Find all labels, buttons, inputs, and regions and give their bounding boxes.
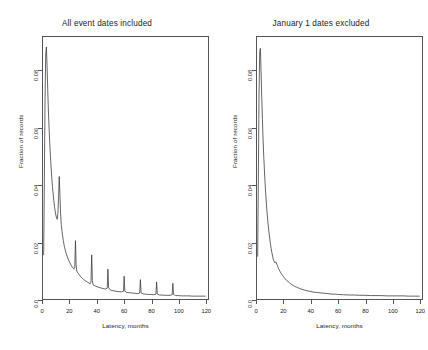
x-tick <box>179 300 180 304</box>
y-axis-left: 0.00.020.040.060.08 <box>0 36 42 300</box>
x-tick-label: 80 <box>148 308 154 314</box>
y-tick-label: 0.06 <box>33 128 39 139</box>
x-axis-title-right: Latency, months <box>256 322 423 329</box>
x-tick-label: 100 <box>388 308 398 314</box>
y-tick-label: 0.02 <box>33 243 39 254</box>
x-tick <box>152 300 153 304</box>
x-tick <box>366 300 367 304</box>
y-tick-label: 0.04 <box>33 185 39 196</box>
x-tick <box>283 300 284 304</box>
y-tick-label: 0.08 <box>247 70 253 81</box>
y-tick-label: 0.0 <box>33 300 39 308</box>
x-tick-label: 80 <box>362 308 368 314</box>
x-tick <box>124 300 125 304</box>
x-tick-label: 120 <box>415 308 425 314</box>
y-tick-label: 0.04 <box>247 185 253 196</box>
density-curve-left <box>43 37 208 299</box>
x-tick-label: 40 <box>94 308 100 314</box>
panel-all-event-dates: All event dates included 0.00.020.040.06… <box>0 0 214 350</box>
density-curve-right <box>257 37 422 299</box>
x-tick-label: 60 <box>121 308 127 314</box>
y-tick-label: 0.02 <box>247 243 253 254</box>
panel-title-right: January 1 dates excluded <box>214 19 428 28</box>
y-axis-title-left: Fraction of records <box>17 115 24 168</box>
panel-january-excluded: January 1 dates excluded 0.00.020.040.06… <box>214 0 428 350</box>
x-tick-label: 20 <box>280 308 286 314</box>
x-tick-label: 100 <box>174 308 184 314</box>
x-tick-label: 60 <box>335 308 341 314</box>
x-tick <box>42 300 43 304</box>
x-axis-title-left: Latency, months <box>42 322 209 329</box>
y-axis-right: 0.00.020.040.060.08 <box>214 36 256 300</box>
x-tick <box>420 300 421 304</box>
x-tick <box>338 300 339 304</box>
x-tick-label: 0 <box>254 308 257 314</box>
x-tick <box>69 300 70 304</box>
x-tick-label: 0 <box>40 308 43 314</box>
x-tick <box>97 300 98 304</box>
x-tick <box>311 300 312 304</box>
x-tick-label: 20 <box>66 308 72 314</box>
x-tick-label: 120 <box>201 308 211 314</box>
x-tick <box>256 300 257 304</box>
y-tick-label: 0.0 <box>247 300 253 308</box>
plot-area-left <box>42 36 209 300</box>
figure-two-panel-latency: All event dates included 0.00.020.040.06… <box>0 0 428 350</box>
x-tick-label: 40 <box>308 308 314 314</box>
x-tick <box>206 300 207 304</box>
plot-area-right <box>256 36 423 300</box>
y-tick-label: 0.06 <box>247 128 253 139</box>
panel-title-left: All event dates included <box>0 19 214 28</box>
y-axis-title-right: Fraction of records <box>231 115 238 168</box>
y-tick-label: 0.08 <box>33 70 39 81</box>
x-tick <box>393 300 394 304</box>
